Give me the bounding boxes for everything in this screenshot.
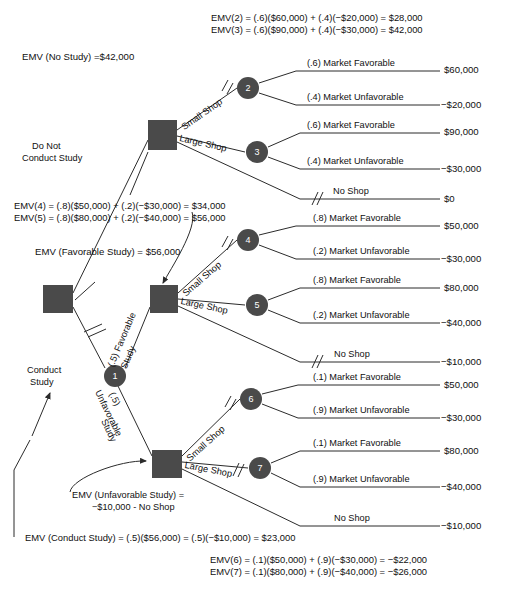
payoff-value: $90,000 [444,126,479,138]
node-chance-3-label: 3 [246,141,268,163]
conduct-study-pointer [32,393,50,436]
edge-outcome-8 [268,288,440,300]
outcome-label: No Shop [334,348,370,360]
prune-mark [222,236,228,247]
prune-mark [225,396,231,407]
prune-mark [233,463,239,476]
edge-fav-no-shop [178,306,300,362]
outcome-label: (.2) Market Unfavorable [313,309,410,321]
do-not-conduct-study-label-line1: Do Not [32,140,61,152]
conduct-study-label-line1: Conduct [27,364,61,376]
emv-3-annotation: EMV(3) = (.6)($90,000) + (.4)(−$30,000) … [211,24,423,37]
edge-outcome-1 [259,71,440,83]
outcome-label: (.6) Market Favorable [307,119,395,131]
edge-root-conduct-study [73,307,105,368]
outcome-label: (.4) Market Unfavorable [307,155,404,167]
emv-unfavorable-study-line2: −$10,000 - No Shop [92,501,175,513]
emv-2-annotation: EMV(2) = (.6)($60,000) + (.4)(−$20,000) … [211,12,423,25]
outcome-label: No Shop [334,512,370,524]
outcome-label: (.6) Market Favorable [307,57,395,69]
outcome-label: (.1) Market Favorable [313,371,401,383]
outcome-label: (.8) Market Favorable [313,212,401,224]
node-chance-7-label: 7 [249,457,271,479]
emv-conduct-study-annotation: EMV (Conduct Study) = (.5)($56,000) = (.… [25,532,295,545]
payoff-value: $0 [444,193,455,205]
conduct-study-label-line2: Study [30,376,54,388]
decision-tree-figure: 1 2 3 4 5 6 7 EMV(2) = (.6)($60,000) + (… [0,0,512,594]
emv-no-study-annotation: EMV (No Study) =$42,000 [22,51,134,63]
outcome-label: (.8) Market Favorable [313,274,401,286]
node-shapes [43,77,271,479]
node-chance-4-label: 4 [237,229,259,251]
emv-5-annotation: EMV(5) = (.8)($80,000) + (.2)(−$40,000) … [14,212,226,225]
emv-favorable-study-annotation: EMV (Favorable Study) = $56,000 [35,246,180,258]
edge-outcome-13 [271,451,440,463]
outcome-label: (.4) Market Unfavorable [307,91,404,103]
edge-outcome-11 [262,385,440,394]
payoff-value: −$30,000 [441,253,481,265]
outcome-label: (.9) Market Unfavorable [313,404,410,416]
node-chance-6-label: 6 [240,388,262,410]
outcome-label: (.1) Market Favorable [313,437,401,449]
emv-7-annotation: EMV(7) = (.1)($80,000) + (.9)(−$40,000) … [210,566,427,579]
do-not-conduct-study-label-line2: Conduct Study [22,152,82,164]
emv-favorable-leader [75,282,95,300]
payoff-value: −$30,000 [441,163,481,175]
payoff-value: $50,000 [444,220,479,232]
payoff-value: $50,000 [444,379,479,391]
edge-outcome-3 [268,133,440,147]
outcome-label: (.2) Market Unfavorable [313,245,410,257]
edge-unfav-no-shop [182,469,300,526]
prune-mark [222,80,228,91]
prune-mark [238,464,244,477]
payoff-value: −$30,000 [441,412,481,424]
node-decision-root[interactable] [43,285,73,313]
edge-outcome-6 [259,226,440,235]
node-chance-2-label: 2 [237,77,259,99]
prune-mark [84,324,102,332]
outcome-label: (.9) Market Unfavorable [313,473,410,485]
payoff-value: −$10,000 [441,520,481,532]
payoff-value: −$40,000 [441,481,481,493]
outcome-label: No Shop [333,185,369,197]
emv-6-annotation: EMV(6) = (.1)($50,000) + (.9)(−$30,000) … [210,554,427,567]
edge-unfavorable-study [118,386,152,456]
payoff-value: $80,000 [444,445,479,457]
node-chance-5-label: 5 [246,294,268,316]
emv-unfav-pointer [70,461,146,492]
payoff-value: $80,000 [444,282,479,294]
node-decision-no-study[interactable] [148,120,177,150]
node-decision-unfavorable[interactable] [152,450,182,478]
emv-conduct-study-leader [14,440,30,537]
payoff-value: −$40,000 [441,317,481,329]
node-decision-favorable[interactable] [150,285,178,313]
prune-mark [88,329,106,337]
payoff-value: $60,000 [444,64,479,76]
emv-4-annotation: EMV(4) = (.8)($50,000) + (.2)(−$30,000) … [14,200,226,213]
payoff-value: −$10,000 [441,356,481,368]
emv-unfavorable-study-line1: EMV (Unfavorable Study) = [72,489,184,501]
payoff-value: −$20,000 [441,99,481,111]
